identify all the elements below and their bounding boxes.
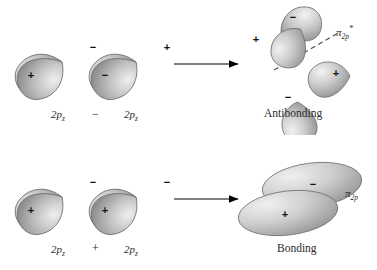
antibonding-row: + − − + + − − + 2pz − 2pz Antibonding π2… — [0, 0, 377, 135]
orbital-sign: + — [25, 205, 37, 216]
result-caption: Antibonding — [264, 107, 322, 119]
orbital-sign: + — [279, 209, 291, 220]
reactant-orbital-right — [82, 178, 148, 242]
orbital-sign: − — [307, 179, 319, 190]
reactant-label-right: 2pz — [124, 243, 138, 258]
reactant-label-left: 2pz — [51, 243, 65, 258]
bonding-row: + − + − + − 2pz + 2pz Bonding π2p — [0, 135, 377, 270]
combination-operator: − — [92, 107, 99, 122]
combination-operator: + — [92, 241, 99, 256]
orbital-sign: + — [161, 42, 173, 53]
orbital-sign: − — [87, 177, 99, 188]
reactant-label-left: 2pz — [51, 108, 65, 123]
orbital-sign: − — [87, 42, 99, 53]
molecular-orbital-label: π2p* — [336, 24, 353, 41]
orbital-sign: + — [250, 34, 262, 45]
orbital-sign: − — [282, 92, 294, 103]
product-lobe-lower-right — [306, 58, 353, 100]
orbital-sign: − — [287, 12, 299, 23]
molecular-orbital-label: π2p — [345, 185, 358, 202]
reactant-orbital-left — [8, 43, 74, 107]
orbital-lobe-positive — [306, 58, 353, 100]
reactant-label-right: 2pz — [124, 108, 138, 123]
reactant-orbital-right — [82, 43, 148, 107]
orbital-sign: + — [330, 68, 342, 79]
orbital-diagram: + − − + + − − + 2pz − 2pz Antibonding π2… — [0, 0, 377, 270]
orbital-sign: + — [99, 205, 111, 216]
reactant-orbital-left — [8, 178, 74, 242]
orbital-sign: + — [25, 70, 37, 81]
orbital-sign: − — [161, 177, 173, 188]
result-caption: Bonding — [277, 242, 317, 254]
orbital-sign: − — [99, 70, 111, 81]
